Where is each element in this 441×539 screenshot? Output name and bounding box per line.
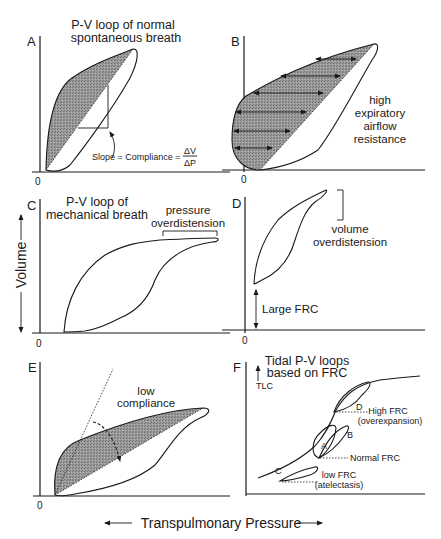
panel-f-loop-b-label: B (347, 430, 353, 440)
panel-a-slope-label: Slope = Compliance = (92, 152, 181, 162)
panel-f-loop-a-label: A (321, 441, 327, 451)
panel-d-overdistension-bracket (337, 190, 343, 220)
panel-f-low-frc-line2: (atelectasis) (315, 480, 364, 490)
panel-e-note-line2: compliance (117, 397, 175, 409)
panel-e: E 0 low compliance (28, 360, 230, 511)
panel-f-loop-c (280, 467, 318, 481)
panel-c: C 0 P-V loop of mechanical breath pressu… (27, 195, 230, 349)
panel-a-title-line1: P-V loop of normal (71, 18, 175, 32)
panel-d-frc-label: Large FRC (262, 303, 318, 315)
panel-f: F Tidal P-V loops based on FRC TLC D Hig… (233, 354, 425, 496)
panel-a-delta-v: ΔV (184, 146, 196, 156)
panel-c-letter: C (27, 198, 36, 213)
panel-a-zero: 0 (35, 176, 41, 187)
panel-a-delta-p: ΔP (184, 158, 196, 168)
x-axis-label-group: Transpulmonary Pressure (105, 515, 322, 531)
panel-b: B 0 high expiratory airflow resistance (222, 34, 425, 185)
panel-d-zero: 0 (242, 335, 248, 346)
panel-b-note-line2: expiratory (355, 107, 406, 119)
panel-a: A 0 P-V loop of normal spontaneous breat… (27, 18, 230, 187)
panel-c-title-line2: mechanical breath (46, 208, 148, 222)
panel-c-zero: 0 (36, 338, 42, 349)
panel-f-low-frc-line1: low FRC (322, 470, 357, 480)
panel-a-title-line2: spontaneous breath (71, 31, 182, 45)
panel-c-note-line2: overdistension (151, 217, 225, 229)
panel-a-letter: A (27, 34, 36, 49)
panel-b-note-line4: resistance (354, 133, 406, 145)
panel-e-letter: E (28, 360, 37, 375)
panel-f-tlc-label: TLC (256, 381, 274, 391)
panel-f-loop-d (334, 382, 370, 412)
y-axis-label-group: Volume (13, 215, 29, 332)
panel-f-high-frc-line1: High FRC (368, 406, 408, 416)
panel-f-letter: F (233, 360, 241, 375)
panel-c-note-line1: pressure (166, 204, 211, 216)
volume-label: Volume (13, 241, 29, 288)
panel-c-pv-loop (64, 238, 218, 332)
panel-b-note-line3: airflow (363, 120, 397, 132)
panel-d-letter: D (232, 196, 241, 211)
panel-c-overdistension-bracket (163, 231, 217, 236)
pv-loop-figure: A 0 P-V loop of normal spontaneous breat… (0, 0, 441, 539)
panel-d: D 0 volume overdistension Large FRC (222, 190, 425, 346)
panel-c-title-line1: P-V loop of (66, 195, 128, 209)
pressure-label: Transpulmonary Pressure (141, 515, 302, 531)
panel-f-high-frc-line2: (overexpansion) (358, 416, 423, 426)
panel-f-title-line2: based on FRC (267, 366, 348, 380)
panel-f-loop-c-label: C (275, 466, 282, 476)
panel-b-note-line1: high (369, 94, 391, 106)
panel-e-zero: 0 (37, 500, 43, 511)
panel-f-loop-d-label: D (356, 402, 363, 412)
panel-f-normal-frc-label: Normal FRC (350, 453, 401, 463)
panel-d-note-line1: volume (331, 223, 368, 235)
panel-b-shaded-area (232, 44, 374, 170)
panel-b-zero: 0 (241, 174, 247, 185)
panel-d-note-line2: overdistension (313, 236, 387, 248)
panel-b-letter: B (231, 34, 240, 49)
panel-e-note-line1: low (137, 385, 155, 397)
